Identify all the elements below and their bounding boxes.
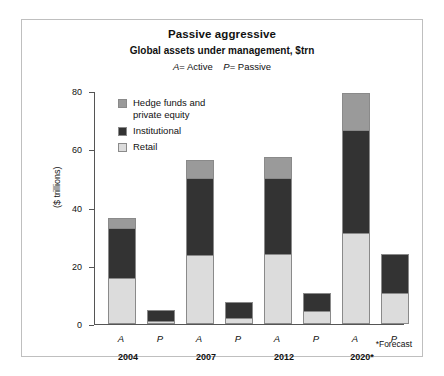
- y-axis-line: [94, 92, 95, 325]
- bar-tag-2004-active: A: [108, 333, 134, 344]
- legend-item-institutional: Institutional: [118, 125, 228, 137]
- segment-retail: [187, 256, 213, 323]
- legend-swatch-icon: [118, 143, 127, 152]
- y-tick-label-0: 0: [77, 320, 82, 330]
- chart-frame: Passive aggressive Global assets under m…: [21, 19, 423, 357]
- y-axis-title: ($ trillions): [52, 166, 62, 208]
- legend-label-institutional: Institutional: [133, 125, 181, 137]
- bar-2020-active: [342, 93, 370, 324]
- legend-item-hedge: Hedge funds and private equity: [118, 97, 228, 121]
- chart-legend: Hedge funds and private equity Instituti…: [118, 97, 228, 157]
- y-tick-80: 80: [89, 92, 94, 93]
- segment-institutional: [187, 179, 213, 256]
- legend-label-hedge: Hedge funds and private equity: [133, 97, 228, 121]
- segment-institutional: [382, 255, 408, 294]
- segment-retail: [304, 312, 330, 323]
- bar-tag-2020-active: A: [342, 333, 368, 344]
- key-active-text: = Active: [179, 61, 213, 72]
- segment-retail: [226, 319, 252, 323]
- segment-retail: [382, 294, 408, 323]
- group-label-2004: 2004: [83, 352, 173, 362]
- bar-2007-active: [186, 160, 214, 324]
- chart-key-note: A= Active P= Passive: [22, 61, 422, 72]
- y-tick-label-20: 20: [72, 262, 82, 272]
- bar-tag-2007-active: A: [186, 333, 212, 344]
- segment-retail: [265, 255, 291, 323]
- segment-hedge: [109, 219, 135, 229]
- group-label-2020: 2020*: [317, 352, 407, 362]
- segment-institutional: [109, 229, 135, 280]
- group-label-2012: 2012: [239, 352, 329, 362]
- y-tick-40: 40: [89, 209, 94, 210]
- y-tick-label-80: 80: [72, 87, 82, 97]
- x-axis-line: [94, 324, 404, 325]
- segment-institutional: [226, 303, 252, 319]
- bar-2020-passive: [381, 254, 409, 324]
- chart-subtitle: Global assets under management, $trn: [22, 45, 422, 56]
- bar-2004-active: [108, 218, 136, 324]
- segment-institutional: [265, 179, 291, 254]
- segment-institutional: [343, 131, 369, 234]
- legend-item-retail: Retail: [118, 141, 228, 153]
- chart-screenshot: Passive aggressive Global assets under m…: [0, 0, 444, 376]
- legend-swatch-icon: [118, 127, 127, 136]
- y-tick-label-40: 40: [72, 204, 82, 214]
- y-tick-60: 60: [89, 150, 94, 151]
- y-tick-20: 20: [89, 267, 94, 268]
- segment-institutional: [148, 311, 174, 322]
- legend-label-retail: Retail: [133, 141, 157, 153]
- chart-title: Passive aggressive: [22, 28, 422, 40]
- bar-tag-2007-passive: P: [225, 333, 251, 344]
- key-passive-text: = Passive: [230, 61, 271, 72]
- forecast-footnote: *Forecast: [376, 339, 412, 349]
- bar-2004-passive: [147, 310, 175, 324]
- bar-tag-2012-active: A: [264, 333, 290, 344]
- y-tick-label-60: 60: [72, 145, 82, 155]
- segment-hedge: [343, 94, 369, 131]
- bar-2007-passive: [225, 302, 253, 324]
- bar-tag-2012-passive: P: [303, 333, 329, 344]
- bar-tag-2004-passive: P: [147, 333, 173, 344]
- group-label-2007: 2007: [161, 352, 251, 362]
- segment-retail: [343, 234, 369, 323]
- bar-2012-active: [264, 157, 292, 324]
- legend-swatch-icon: [118, 99, 127, 108]
- segment-hedge: [265, 158, 291, 179]
- y-tick-0: 0: [89, 325, 94, 326]
- segment-retail: [109, 279, 135, 323]
- segment-retail: [148, 322, 174, 324]
- segment-hedge: [187, 161, 213, 180]
- bar-2012-passive: [303, 293, 331, 324]
- segment-institutional: [304, 294, 330, 312]
